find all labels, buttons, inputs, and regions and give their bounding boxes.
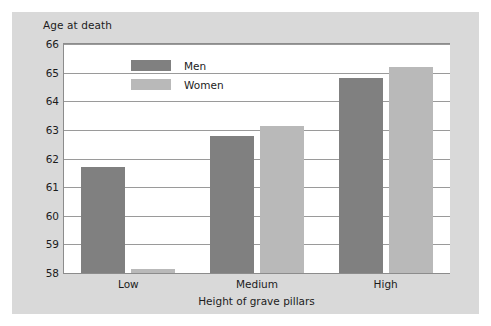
bar-high-women [389, 67, 433, 273]
y-tick-label: 62 [46, 153, 59, 165]
bar-low-women [131, 269, 175, 273]
x-category-label-low: Low [118, 278, 139, 290]
x-axis-title: Height of grave pillars [63, 295, 450, 307]
legend-label-women: Women [184, 79, 224, 91]
x-category-label-medium: Medium [236, 278, 278, 290]
chart-legend: Men Women [131, 56, 251, 94]
legend-swatch-men-icon [131, 60, 171, 71]
plot-area: 585960616263646566 LowMediumHigh [63, 43, 450, 274]
y-tick-label: 65 [46, 67, 59, 79]
legend-label-men: Men [184, 60, 206, 72]
y-tick-label: 58 [46, 267, 59, 279]
legend-item-men: Men [131, 56, 251, 75]
chart-figure: Age at death 585960616263646566 LowMediu… [12, 12, 479, 314]
y-tick-label: 63 [46, 124, 59, 136]
legend-item-women: Women [131, 75, 251, 94]
y-tick-label: 66 [46, 38, 59, 50]
gridline [64, 44, 450, 45]
bar-medium-men [210, 136, 254, 273]
legend-swatch-women-icon [131, 79, 171, 90]
bar-medium-women [260, 126, 304, 273]
bar-low-men [81, 167, 125, 273]
y-tick-label: 60 [46, 210, 59, 222]
y-tick-label: 61 [46, 181, 59, 193]
bar-high-men [339, 78, 383, 273]
y-axis-title: Age at death [43, 19, 112, 31]
y-tick-label: 59 [46, 238, 59, 250]
x-category-label-high: High [374, 278, 398, 290]
y-tick-label: 64 [46, 95, 59, 107]
